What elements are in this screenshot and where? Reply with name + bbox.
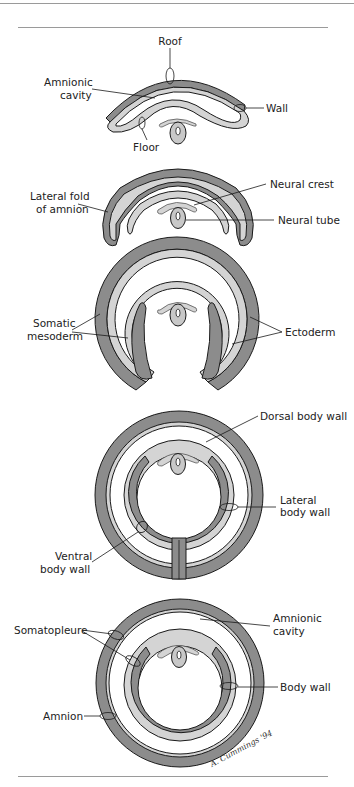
- label-lateral-fold-line1: Lateral fold: [30, 190, 90, 202]
- label-neural-crest: Neural crest: [270, 178, 334, 190]
- stage2-neural-canal: [176, 212, 180, 220]
- label-lateral-body-wall-line2: body wall: [280, 506, 330, 518]
- label-body-wall: Body wall: [280, 681, 331, 693]
- label-lateral-body-wall-line1: Lateral: [280, 494, 317, 506]
- label-neural-tube: Neural tube: [278, 214, 340, 226]
- label-ectoderm: Ectoderm: [285, 326, 335, 338]
- label-wall: Wall: [266, 102, 288, 114]
- label-amnionic-cavity-1-line1: Amnionic: [44, 76, 93, 88]
- stage3-neural-canal: [176, 309, 180, 317]
- stage-4-diagram: Dorsal body wall Lateral body wall Ventr…: [40, 410, 347, 579]
- label-amnionic-cavity-2-line2: cavity: [273, 625, 305, 637]
- label-dorsal-body-wall: Dorsal body wall: [260, 410, 347, 422]
- label-roof: Roof: [158, 35, 182, 47]
- stage5-neural-canal: [177, 651, 181, 659]
- stage-3-diagram: Somatic mesoderm Ectoderm: [27, 237, 335, 390]
- embryo-folding-diagram: .dk { fill:#8c8c8c; stroke:#1a1a1a; stro…: [0, 0, 354, 787]
- stage1-neural-canal: [176, 127, 180, 135]
- label-somatic-mesoderm-line1: Somatic: [33, 317, 76, 329]
- label-lateral-fold-line2: of amnion: [36, 203, 89, 215]
- label-floor: Floor: [133, 141, 160, 153]
- label-ventral-body-wall-line2: body wall: [40, 563, 90, 575]
- label-somatopleure: Somatopleure: [14, 624, 88, 636]
- stage4-neural-canal: [176, 458, 180, 466]
- stage-1-diagram: Roof Amnionic cavity Wall Floor: [44, 35, 288, 153]
- label-somatic-mesoderm-line2: mesoderm: [27, 330, 83, 342]
- label-amnionic-cavity-1-line2: cavity: [60, 89, 92, 101]
- label-amnion: Amnion: [43, 710, 83, 722]
- stage-5-diagram: Somatopleure Amnionic cavity Body wall A…: [14, 599, 331, 769]
- label-amnionic-cavity-2-line1: Amnionic: [273, 612, 322, 624]
- label-ventral-body-wall-line1: Ventral: [55, 550, 92, 562]
- stage-2-diagram: Lateral fold of amnion Neural crest Neur…: [30, 169, 340, 246]
